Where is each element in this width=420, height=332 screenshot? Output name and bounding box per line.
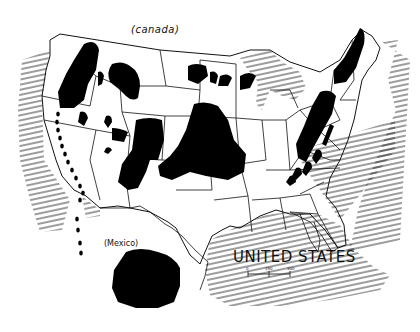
utah-cluster-1: [104, 116, 112, 128]
montana-region: [108, 62, 140, 99]
idaho-cluster: [98, 72, 104, 87]
upper-midwest-cluster-4: [240, 73, 256, 90]
pacific-ocean-hatch: [18, 50, 70, 232]
northern-rockies-region: [58, 42, 99, 108]
utah-cluster-3: [104, 147, 112, 154]
colorado-region: [118, 118, 164, 190]
new-england-region: [334, 28, 365, 84]
pacific-coast-dots: [55, 112, 85, 256]
scale-tick-300: 300: [287, 266, 295, 271]
utah-cluster-2: [112, 128, 128, 142]
great-plains-region: [158, 102, 246, 180]
gulf-of-california-hatch: [82, 196, 100, 218]
mexico-label: (Mexico): [104, 239, 138, 248]
scale-tick-150: 150: [265, 266, 273, 271]
mexico-region: [112, 249, 180, 308]
scale-tick-0: 0: [246, 266, 249, 271]
southern-appalachian-cluster-4: [286, 176, 296, 186]
map-title: UNITED STATES: [233, 248, 356, 266]
us-map: [0, 0, 420, 332]
upper-midwest-cluster-2: [210, 72, 218, 85]
nevada-cluster-1: [78, 112, 88, 126]
upper-midwest-cluster-3: [218, 74, 232, 86]
canada-label: (canada): [131, 24, 179, 35]
upper-midwest-cluster-1: [188, 64, 208, 84]
